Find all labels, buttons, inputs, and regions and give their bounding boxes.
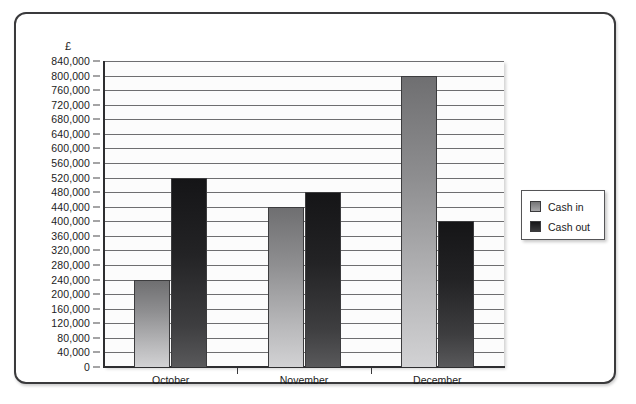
y-axis-tick-label: 680,000 — [51, 113, 90, 125]
y-axis-tick-mark — [93, 75, 100, 76]
y-axis-tick-label: 560,000 — [51, 157, 90, 169]
bar-october-cash-in[interactable] — [134, 280, 170, 367]
y-axis-tick-label: 640,000 — [51, 128, 90, 140]
legend-item-cash-out: Cash out — [530, 218, 604, 235]
y-axis-unit-label: £ — [65, 40, 71, 52]
legend-label-cash-out: Cash out — [548, 221, 590, 233]
y-axis-tick-mark — [93, 294, 100, 295]
y-axis-tick-label: 160,000 — [51, 303, 90, 315]
cash-in-swatch-icon — [530, 201, 541, 212]
x-axis-labels: OctoberNovemberDecember — [104, 370, 504, 392]
legend-item-cash-in: Cash in — [530, 198, 604, 215]
y-axis-labels: 840,000800,000760,000720,000680,000640,0… — [16, 61, 100, 367]
y-axis-tick-mark — [93, 104, 100, 105]
cash-out-swatch-icon — [530, 221, 541, 232]
y-axis-tick-mark — [93, 192, 100, 193]
x-axis-label-november: November — [280, 374, 328, 386]
y-axis-tick-mark — [93, 265, 100, 266]
chart-frame: £ 840,000800,000760,000720,000680,000640… — [14, 12, 616, 384]
x-axis-separator — [371, 368, 372, 374]
y-axis-tick-label: 800,000 — [51, 70, 90, 82]
y-axis-tick-mark — [93, 177, 100, 178]
y-axis-tick-label: 720,000 — [51, 99, 90, 111]
y-axis-tick-mark — [93, 250, 100, 251]
y-axis-tick-mark — [93, 148, 100, 149]
chart-legend: Cash in Cash out — [521, 190, 605, 240]
bar-december-cash-out[interactable] — [438, 221, 474, 367]
y-axis-tick-mark — [93, 90, 100, 91]
x-axis-label-october: October — [152, 374, 189, 386]
y-axis-tick-mark — [93, 308, 100, 309]
y-axis-tick-label: 240,000 — [51, 274, 90, 286]
y-axis-tick-mark — [93, 221, 100, 222]
y-axis-tick-mark — [93, 119, 100, 120]
y-axis-tick-mark — [93, 235, 100, 236]
y-axis-tick-mark — [93, 133, 100, 134]
y-axis-tick-label: 320,000 — [51, 244, 90, 256]
y-axis-tick-label: 400,000 — [51, 215, 90, 227]
y-axis-tick-label: 840,000 — [51, 55, 90, 67]
y-axis-tick-label: 200,000 — [51, 288, 90, 300]
bar-november-cash-in[interactable] — [268, 207, 304, 367]
bar-october-cash-out[interactable] — [171, 178, 207, 367]
bar-november-cash-out[interactable] — [305, 192, 341, 367]
y-axis-tick-mark — [93, 352, 100, 353]
y-axis-tick-label: 360,000 — [51, 230, 90, 242]
y-axis-tick-label: 440,000 — [51, 201, 90, 213]
y-axis-tick-mark — [93, 323, 100, 324]
y-axis-tick-mark — [93, 279, 100, 280]
y-axis-tick-mark — [93, 206, 100, 207]
y-axis-tick-mark — [93, 163, 100, 164]
y-axis-tick-label: 600,000 — [51, 142, 90, 154]
y-axis-tick-label: 0 — [84, 361, 90, 373]
y-axis-tick-mark — [93, 337, 100, 338]
bar-december-cash-in[interactable] — [401, 76, 437, 367]
y-axis-tick-label: 520,000 — [51, 172, 90, 184]
x-axis-separator — [237, 368, 238, 374]
y-axis-tick-label: 760,000 — [51, 84, 90, 96]
y-axis-tick-label: 120,000 — [51, 317, 90, 329]
y-axis-tick-label: 280,000 — [51, 259, 90, 271]
y-axis-tick-label: 80,000 — [57, 332, 90, 344]
plot-area — [104, 61, 504, 367]
bar-group-container — [104, 61, 504, 367]
y-axis-tick-label: 40,000 — [57, 346, 90, 358]
x-axis-label-december: December — [413, 374, 461, 386]
legend-label-cash-in: Cash in — [548, 201, 584, 213]
y-axis-tick-mark — [93, 61, 100, 62]
y-axis-tick-mark — [93, 367, 100, 368]
y-axis-tick-label: 480,000 — [51, 186, 90, 198]
